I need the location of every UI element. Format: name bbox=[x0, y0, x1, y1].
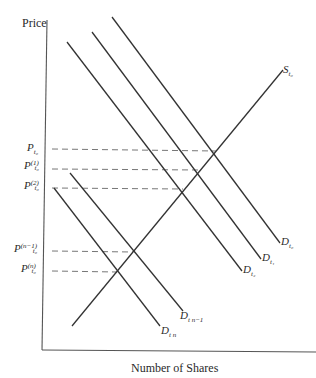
x-axis bbox=[42, 350, 316, 352]
price-label-p0: Pt₀ bbox=[27, 142, 38, 156]
price-label-p2: P(2)t₀ bbox=[24, 180, 39, 192]
demand-label-tn: Dt n bbox=[161, 325, 176, 339]
demand-curve-t1 bbox=[92, 32, 261, 259]
dash-pn bbox=[52, 271, 117, 272]
supply-curve bbox=[72, 70, 283, 326]
dash-p1 bbox=[52, 169, 200, 170]
price-label-p1: P(1)t₀ bbox=[24, 160, 39, 172]
dash-p0 bbox=[52, 149, 216, 151]
demand-curve-t0 bbox=[112, 17, 280, 243]
dash-pn1 bbox=[52, 251, 133, 252]
demand-label-t2: Dt₂ bbox=[243, 264, 255, 278]
dash-p2 bbox=[52, 188, 183, 189]
supply-demand-diagram bbox=[0, 0, 316, 378]
demand-label-t0: Dt₀ bbox=[281, 236, 293, 250]
x-axis-label: Number of Shares bbox=[131, 362, 218, 374]
supply-label: St₀ bbox=[283, 64, 293, 78]
price-label-pn1: P(n−1)t₀ bbox=[14, 243, 37, 255]
demand-curve-tn bbox=[54, 188, 160, 326]
y-axis-label: Price bbox=[22, 17, 47, 29]
price-label-pn: P(n)t₀ bbox=[21, 263, 36, 275]
demand-label-tn1: Dt n−1 bbox=[180, 310, 203, 324]
y-axis bbox=[42, 20, 47, 350]
demand-label-t1: Dt₁ bbox=[262, 252, 274, 266]
demand-curve-tn1 bbox=[70, 173, 183, 311]
